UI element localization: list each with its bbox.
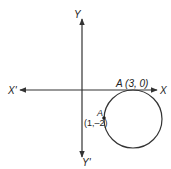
point-a-1-minus-2-name: A bbox=[96, 108, 103, 118]
x-prime-axis-label: X' bbox=[7, 85, 18, 96]
point-a-3-0-label: A (3, 0) bbox=[115, 78, 148, 89]
y-prime-axis-label: Y' bbox=[82, 157, 92, 168]
x-axis-label: X bbox=[159, 85, 167, 96]
y-axis-label: Y bbox=[74, 9, 82, 20]
point-a-1-minus-2-coords: (1,–2) bbox=[84, 118, 108, 128]
diagram-canvas: Y Y' X' X A (3, 0) A (1,–2) bbox=[0, 0, 171, 169]
circle bbox=[104, 90, 162, 148]
